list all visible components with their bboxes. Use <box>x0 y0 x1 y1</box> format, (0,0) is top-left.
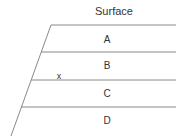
layer-c-label: C <box>103 88 110 99</box>
layer-b-label: B <box>104 60 111 71</box>
marker-x-label: x <box>57 71 62 81</box>
surface-label: Surface <box>95 5 133 17</box>
layer-a-label: A <box>104 34 111 45</box>
rock-layers-diagram: Surface A B C D x <box>0 0 184 139</box>
layer-d-label: D <box>103 115 110 126</box>
